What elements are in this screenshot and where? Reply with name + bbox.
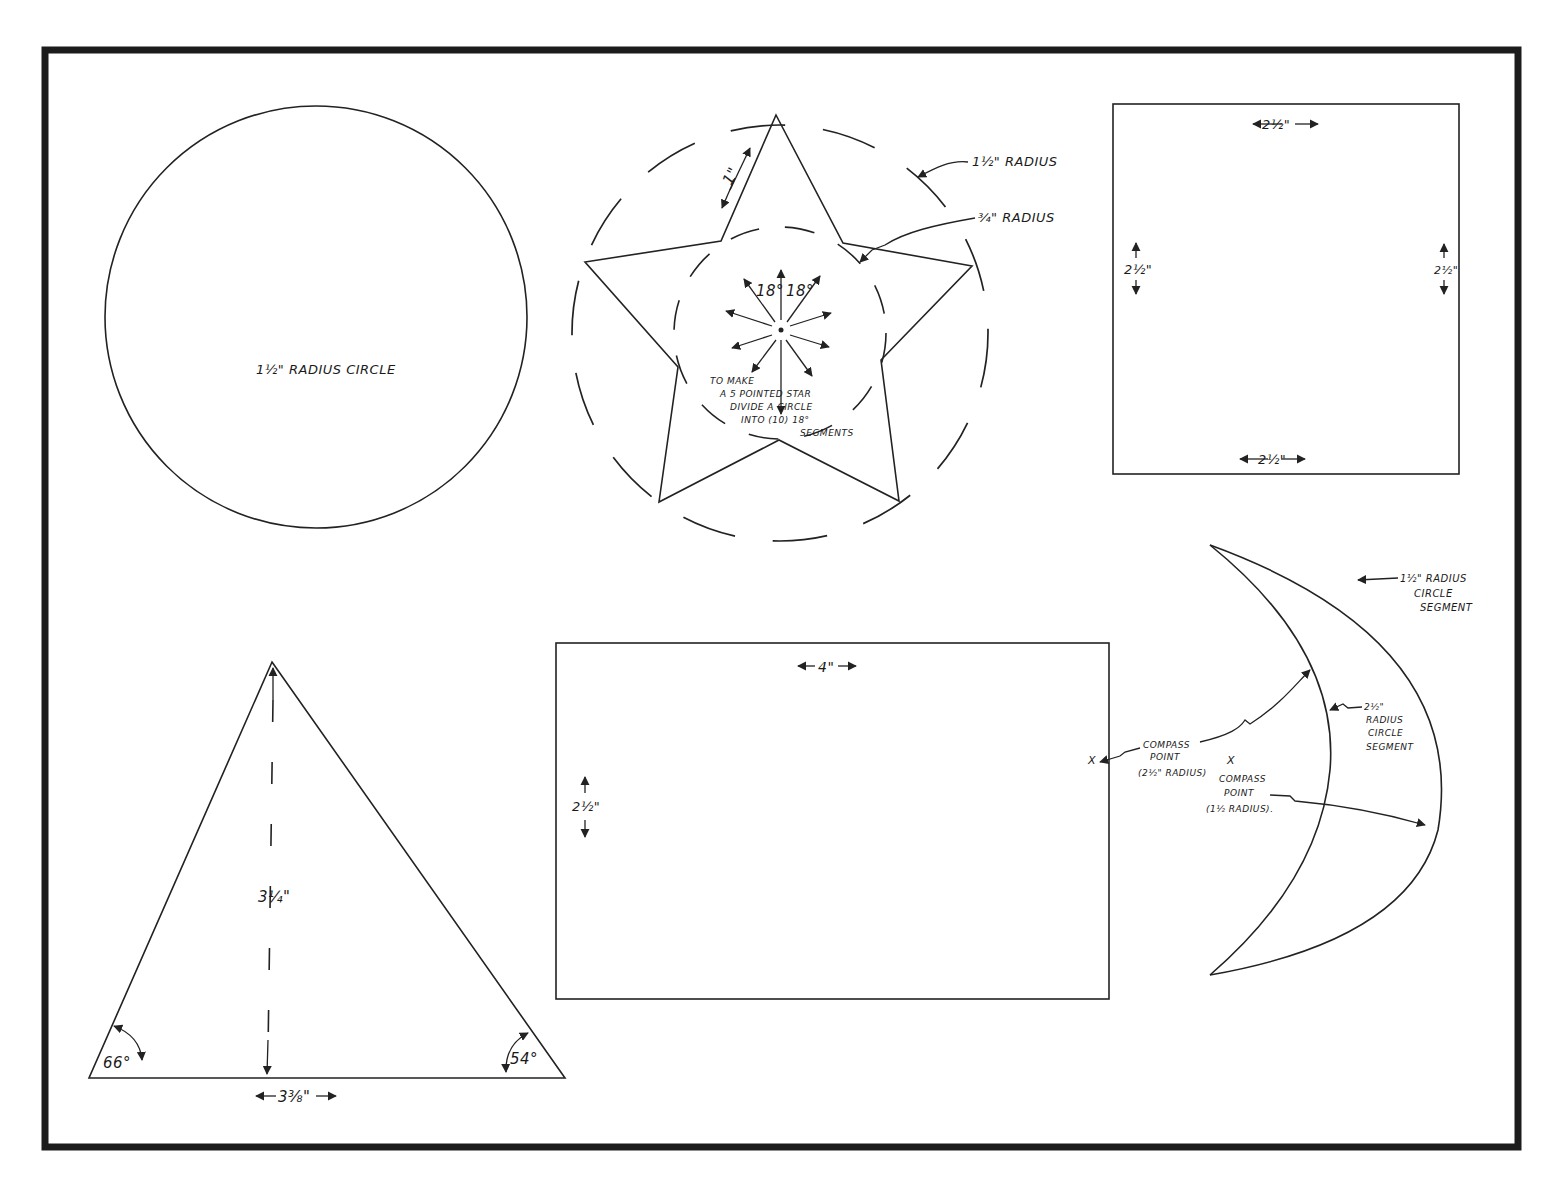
star-side-label: 1" bbox=[719, 164, 743, 188]
square-shape: 2½" 2½" 2½" 2½" bbox=[1113, 104, 1459, 474]
triangle-shape: 3¼" 3⅜" 66° 54° bbox=[89, 662, 565, 1106]
svg-text:(1½ RADIUS).: (1½ RADIUS). bbox=[1206, 804, 1274, 814]
triangle-right-angle: 54° bbox=[510, 1050, 538, 1068]
svg-text:COMPASS: COMPASS bbox=[1143, 740, 1190, 750]
svg-text:RADIUS: RADIUS bbox=[1366, 715, 1403, 725]
page-frame bbox=[45, 50, 1518, 1147]
crescent-inner-label: 2½" RADIUS CIRCLE SEGMENT bbox=[1364, 702, 1415, 752]
star-outer-radius-label: 1½" RADIUS bbox=[972, 154, 1058, 169]
svg-text:TO MAKE: TO MAKE bbox=[710, 376, 754, 386]
square-left-label: 2½" bbox=[1124, 262, 1152, 277]
square-bottom-label: 2½" bbox=[1258, 452, 1286, 467]
svg-text:(2½" RADIUS): (2½" RADIUS) bbox=[1138, 768, 1207, 778]
triangle-left-angle: 66° bbox=[103, 1054, 131, 1072]
svg-text:CIRCLE: CIRCLE bbox=[1368, 728, 1403, 738]
rectangle-height-label: 2½" bbox=[572, 799, 600, 814]
svg-text:CIRCLE: CIRCLE bbox=[1414, 588, 1453, 599]
triangle-height-label: 3¼" bbox=[258, 888, 290, 906]
crescent-shape: 1½" RADIUS CIRCLE SEGMENT 2½" RADIUS CIR… bbox=[1087, 545, 1473, 975]
square-top-label: 2½" bbox=[1262, 117, 1290, 132]
svg-text:A 5 POINTED STAR: A 5 POINTED STAR bbox=[719, 389, 811, 399]
triangle-base-label: 3⅜" bbox=[278, 1088, 310, 1106]
star-angle-right: 18° bbox=[786, 282, 814, 300]
star-instructions: TO MAKE A 5 POINTED STAR DIVIDE A CIRCLE… bbox=[710, 376, 854, 438]
svg-text:POINT: POINT bbox=[1224, 788, 1255, 798]
shape-template-sheet: 1½" RADIUS CIRCLE 1" 1½" RADIUS ¾" RADIU… bbox=[0, 0, 1560, 1192]
svg-text:SEGMENT: SEGMENT bbox=[1420, 602, 1473, 613]
square-right-label: 2½" bbox=[1434, 264, 1458, 277]
rectangle-width-label: 4" bbox=[818, 659, 834, 675]
compass-b-x-mark: X bbox=[1226, 754, 1235, 767]
svg-text:COMPASS: COMPASS bbox=[1219, 774, 1266, 784]
svg-text:2½": 2½" bbox=[1364, 702, 1384, 712]
star-inner-radius-label: ¾" RADIUS bbox=[978, 210, 1055, 225]
svg-text:POINT: POINT bbox=[1150, 752, 1181, 762]
compass-b-label: COMPASS POINT (1½ RADIUS). bbox=[1206, 774, 1274, 814]
star-shape: 1" 1½" RADIUS ¾" RADIUS 18° 18° TO MAKE … bbox=[572, 115, 1058, 541]
rectangle-shape: 4" 2½" bbox=[556, 643, 1109, 999]
compass-a-x-mark: X bbox=[1087, 754, 1096, 767]
svg-text:1½" RADIUS: 1½" RADIUS bbox=[1400, 573, 1467, 584]
circle-shape: 1½" RADIUS CIRCLE bbox=[105, 106, 527, 528]
star-angle-left: 18° bbox=[756, 282, 784, 300]
svg-text:DIVIDE A CIRCLE: DIVIDE A CIRCLE bbox=[730, 402, 813, 412]
compass-a-label: COMPASS POINT (2½" RADIUS) bbox=[1138, 740, 1207, 778]
svg-text:INTO (10) 18°: INTO (10) 18° bbox=[741, 415, 810, 425]
circle-label: 1½" RADIUS CIRCLE bbox=[256, 362, 396, 377]
svg-text:SEGMENT: SEGMENT bbox=[1366, 742, 1415, 752]
crescent-outer-label: 1½" RADIUS CIRCLE SEGMENT bbox=[1400, 573, 1473, 613]
svg-text:SEGMENTS: SEGMENTS bbox=[800, 428, 854, 438]
